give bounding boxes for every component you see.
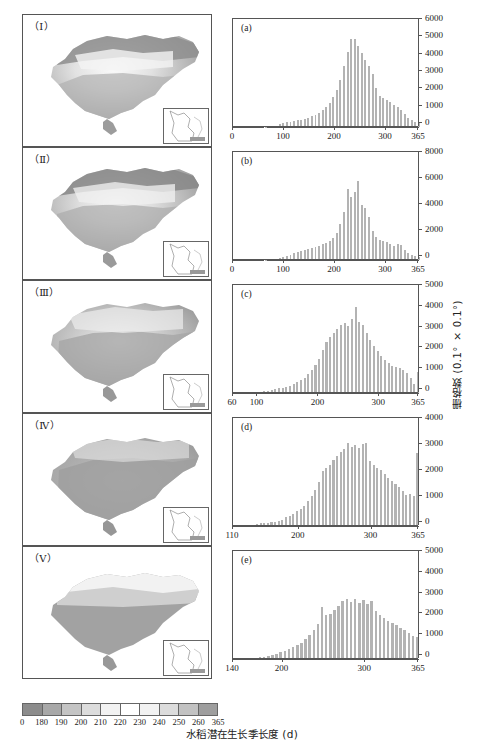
- x-axis-tick: [417, 259, 418, 263]
- y-axis-tick-label: 0: [425, 118, 430, 127]
- x-axis-tick-label: 365: [411, 664, 425, 673]
- y-axis-tick: [418, 417, 422, 418]
- y-axis-tick: [418, 346, 422, 347]
- colorbar-tick-label: 220: [114, 718, 127, 727]
- histogram-bar: [353, 445, 356, 526]
- histogram-bar: [299, 509, 302, 526]
- histogram-bar: [331, 460, 334, 526]
- histogram-bar: [379, 470, 382, 526]
- histogram-bar: [295, 511, 298, 526]
- histogram-bar: [378, 96, 381, 127]
- histogram-bar: [369, 601, 373, 659]
- histogram-bar: [338, 80, 341, 127]
- histogram-bar: [383, 474, 386, 526]
- histogram-bar: [363, 60, 366, 127]
- map-panel-3[interactable]: （Ⅲ）: [22, 280, 212, 413]
- map-inset-1: [163, 108, 209, 144]
- figure-row-5: （Ⅴ） (e: [0, 546, 480, 679]
- colorbar-tick-label: 230: [133, 718, 146, 727]
- y-axis-tick-label: 4000: [425, 48, 443, 57]
- histogram-bar: [367, 217, 370, 260]
- map-panel-label: （Ⅴ）: [29, 550, 57, 565]
- histogram-x-axis-d: 110200300365: [232, 525, 418, 545]
- y-axis-tick-label: 6000: [425, 14, 443, 23]
- histogram-bar: [399, 110, 402, 127]
- y-axis-tick: [418, 367, 422, 368]
- histogram-bar: [376, 351, 379, 393]
- histogram-bar: [324, 243, 327, 260]
- histogram-bar: [313, 365, 316, 393]
- y-axis-tick: [418, 177, 422, 178]
- histogram-bar: [382, 618, 386, 659]
- map-panel-4[interactable]: （Ⅳ）: [22, 413, 212, 546]
- colorbar-swatch: [121, 704, 141, 715]
- histogram-bar: [324, 468, 327, 527]
- histogram-bar: [324, 342, 327, 393]
- histogram-bar: [335, 329, 338, 393]
- y-axis-tick-label: 6000: [425, 173, 443, 182]
- y-axis-tick: [418, 255, 422, 256]
- y-axis-tick-label: 0: [425, 517, 430, 526]
- histogram-bar: [303, 378, 306, 393]
- x-axis-tick: [232, 658, 233, 662]
- colorbar-swatch: [62, 704, 82, 715]
- x-axis-tick-label: 100: [276, 265, 290, 274]
- x-axis-tick: [282, 658, 283, 662]
- histogram-bar: [379, 356, 382, 393]
- histogram-panel-b[interactable]: (b): [232, 151, 419, 261]
- colorbar-swatches: [22, 703, 218, 716]
- histogram-bars-b: [233, 152, 419, 260]
- y-axis-tick: [418, 35, 422, 36]
- histogram-panel-d[interactable]: (d): [232, 417, 419, 527]
- histogram-bar: [388, 244, 391, 260]
- histogram-bar: [349, 39, 352, 127]
- histogram-panel-c[interactable]: (c): [232, 284, 419, 394]
- histogram-bar: [408, 494, 411, 527]
- histogram-bar: [316, 624, 320, 659]
- histogram-bar: [339, 325, 342, 393]
- map-panel-1[interactable]: （Ⅰ）: [22, 14, 212, 147]
- x-axis-tick-label: 200: [327, 132, 341, 141]
- y-axis-tick: [418, 443, 422, 444]
- histogram-panel-a[interactable]: (a): [232, 18, 419, 128]
- y-axis-tick: [418, 388, 422, 389]
- x-axis-tick: [417, 392, 418, 396]
- x-axis-tick-label: 300: [358, 664, 372, 673]
- colorbar-swatch: [82, 704, 102, 715]
- y-axis-tick: [418, 612, 422, 613]
- histogram-bar: [306, 374, 309, 393]
- y-axis-title: 栅格数 (0.1° × 0.1°): [452, 300, 472, 409]
- histogram-bar: [405, 373, 408, 393]
- histogram-bar: [394, 367, 397, 393]
- y-axis-tick: [418, 654, 422, 655]
- y-axis-tick: [418, 495, 422, 496]
- colorbar-swatch: [160, 704, 180, 715]
- map-panel-label: （Ⅳ）: [29, 417, 60, 432]
- histogram-bar: [357, 448, 360, 526]
- x-axis-title: 水稻潜在生长季长度 (d): [186, 726, 298, 741]
- histogram-bar: [335, 233, 338, 260]
- histogram-panel-e[interactable]: (e): [232, 550, 419, 660]
- histogram-bar: [307, 635, 311, 659]
- histogram-bar: [372, 465, 375, 526]
- map-inset-4: [163, 507, 209, 543]
- x-axis-tick: [334, 259, 335, 263]
- x-axis-tick-label: 0: [230, 265, 235, 274]
- histogram-bar: [386, 478, 389, 526]
- map-panel-5[interactable]: （Ⅴ）: [22, 546, 212, 679]
- histogram-bar: [346, 52, 349, 127]
- x-axis-tick-label: 140: [225, 664, 239, 673]
- x-axis-tick-label: 0: [230, 132, 235, 141]
- x-axis-tick-label: 60: [228, 398, 237, 407]
- map-panel-2[interactable]: （Ⅱ）: [22, 147, 212, 280]
- figure-root: （Ⅰ）: [0, 0, 480, 748]
- histogram-bar: [353, 599, 357, 659]
- histogram-label-a: (a): [241, 23, 252, 33]
- histogram-bar: [349, 197, 352, 260]
- histogram-bar: [404, 495, 407, 526]
- x-axis-tick: [417, 126, 418, 130]
- histogram-bar: [396, 244, 399, 260]
- histogram-bar: [368, 461, 371, 526]
- colorbar-tick-label: 210: [94, 718, 107, 727]
- histogram-bar: [399, 245, 402, 260]
